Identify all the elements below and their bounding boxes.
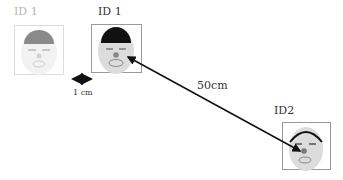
face-id1-faded	[21, 30, 57, 75]
distance-arrow-50cm	[128, 57, 300, 151]
diagram-canvas	[0, 0, 343, 180]
face-id1	[98, 27, 134, 74]
face-id2	[289, 127, 323, 171]
